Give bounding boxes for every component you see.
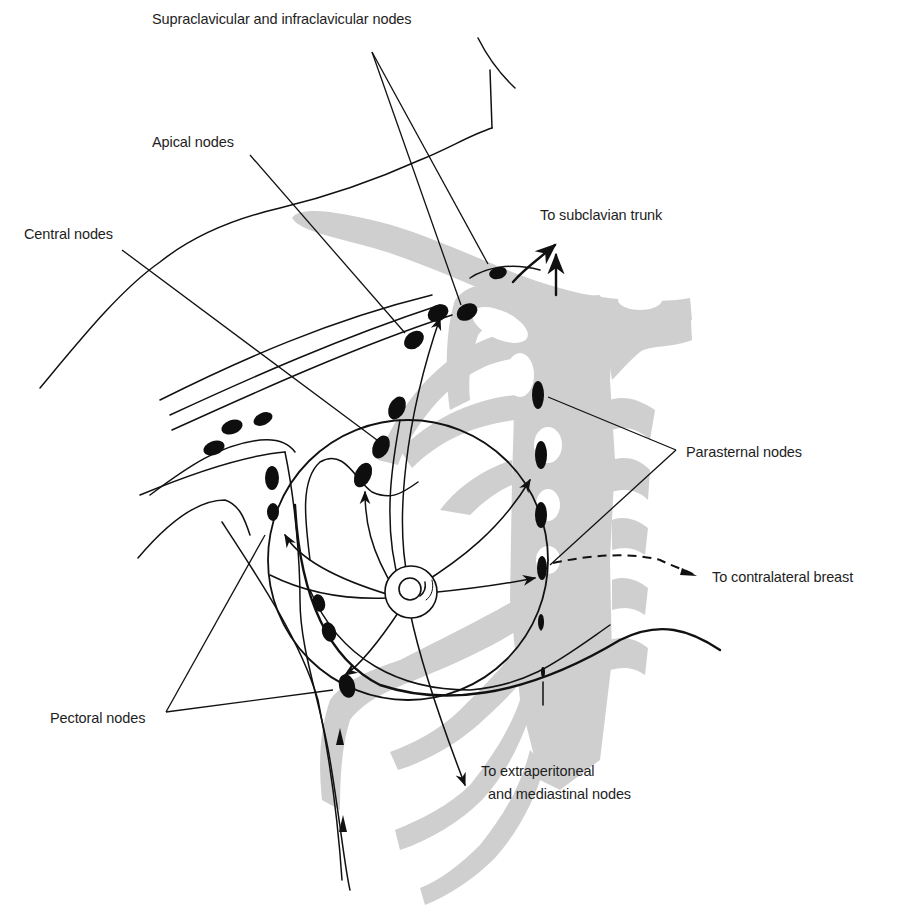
breast-lymphatic-drainage-diagram: [0, 0, 901, 922]
central-node: [251, 409, 274, 428]
vessel-to-subclavian-1: [513, 245, 555, 282]
label-apical-nodes: Apical nodes: [152, 134, 234, 151]
central-node: [350, 460, 375, 490]
parasternal-node: [535, 441, 547, 469]
rib-right-1: [600, 300, 692, 380]
vessel-to-pectoral: [285, 535, 390, 595]
axilla-fold: [140, 452, 285, 495]
rib-right-5: [612, 578, 648, 615]
axillary-vessel-1: [160, 295, 432, 400]
leader-central: [122, 250, 377, 440]
leader-supraclavicular-2: [372, 52, 461, 305]
label-to-contralateral-breast: To contralateral breast: [712, 569, 853, 586]
label-parasternal-nodes: Parasternal nodes: [686, 444, 802, 461]
label-central-nodes: Central nodes: [24, 226, 113, 243]
leader-pectoral-1: [166, 535, 265, 712]
label-pectoral-nodes: Pectoral nodes: [50, 710, 145, 727]
label-to-extraperitoneal: To extraperitoneal: [481, 763, 594, 780]
diagram-canvas: Supraclavicular and infraclavicular node…: [0, 0, 901, 922]
lateral-line: [222, 522, 342, 880]
nipple: [385, 566, 437, 618]
parasternal-node: [541, 667, 545, 677]
label-to-subclavian-trunk: To subclavian trunk: [540, 207, 662, 224]
arm-lower-line: [138, 500, 250, 558]
label-mediastinal-nodes: and mediastinal nodes: [488, 786, 631, 803]
rib-4: [440, 460, 512, 515]
lateral-node: [201, 438, 226, 459]
arrowhead-contralateral: [680, 568, 697, 576]
neck-curve: [478, 38, 515, 88]
pectoral-node: [267, 503, 279, 521]
lateral-node: [219, 417, 244, 438]
label-supraclavicular-infraclavicular-nodes: Supraclavicular and infraclavicular node…: [152, 11, 411, 28]
nipple-tip: [399, 578, 421, 600]
intercostal-space: [618, 290, 662, 310]
vessel-lateral: [270, 575, 388, 598]
rib-right-2: [610, 398, 655, 440]
parasternal-node: [537, 556, 547, 580]
leader-pectoral-2: [166, 690, 333, 712]
parasternal-node: [532, 381, 544, 409]
parasternal-node: [538, 614, 544, 630]
neck-outline: [490, 70, 492, 128]
parasternal-node: [535, 502, 547, 528]
rib-right-4: [612, 518, 648, 555]
intercostal-space: [506, 353, 534, 397]
pectoral-node: [265, 466, 279, 490]
